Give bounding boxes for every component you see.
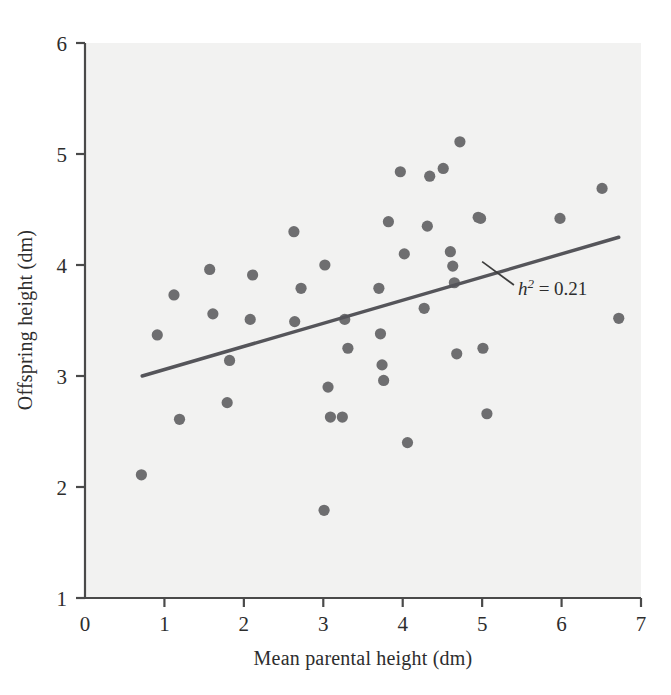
scatter-point	[342, 343, 353, 354]
scatter-point	[424, 171, 435, 182]
y-tick-label: 3	[57, 365, 68, 389]
scatter-point	[419, 303, 430, 314]
scatter-point	[422, 221, 433, 232]
scatter-point	[375, 328, 386, 339]
scatter-point	[445, 246, 456, 257]
scatter-point	[224, 355, 235, 366]
x-tick-label: 4	[397, 612, 408, 636]
scatter-point	[399, 248, 410, 259]
scatter-point	[613, 313, 624, 324]
y-axis-ticks	[76, 43, 85, 598]
x-tick-label: 0	[80, 612, 91, 636]
y-axis-title: Offspring height (dm)	[14, 230, 37, 410]
scatter-point	[289, 316, 300, 327]
scatter-point	[204, 264, 215, 275]
y-axis-tick-labels: 123456	[57, 32, 68, 611]
scatter-point	[325, 411, 336, 422]
scatter-point	[152, 329, 163, 340]
scatter-point	[136, 469, 147, 480]
y-tick-label: 1	[57, 587, 68, 611]
x-tick-label: 1	[159, 612, 170, 636]
scatter-point	[295, 283, 306, 294]
scatter-point	[447, 261, 458, 272]
scatter-point	[475, 213, 486, 224]
scatter-point	[337, 411, 348, 422]
scatter-point	[373, 283, 384, 294]
plot-area-background	[85, 43, 641, 598]
scatter-point	[322, 382, 333, 393]
y-tick-label: 4	[57, 254, 68, 278]
scatter-point	[376, 359, 387, 370]
annotation-h-symbol: h	[518, 278, 528, 299]
scatter-point	[207, 308, 218, 319]
x-tick-label: 7	[636, 612, 647, 636]
scatter-point	[438, 163, 449, 174]
scatter-point	[554, 213, 565, 224]
y-tick-label: 5	[57, 143, 68, 167]
scatter-point	[481, 408, 492, 419]
y-tick-label: 2	[57, 476, 68, 500]
annotation-value: = 0.21	[534, 278, 587, 299]
scatter-point	[319, 259, 330, 270]
scatter-point	[402, 437, 413, 448]
scatter-point	[395, 166, 406, 177]
x-axis-ticks	[164, 598, 641, 607]
scatter-point	[245, 314, 256, 325]
chart-canvas: 123456 01234567 h2 = 0.21 Mean parental …	[0, 0, 671, 695]
scatter-point	[383, 216, 394, 227]
x-tick-label: 3	[318, 612, 329, 636]
x-tick-label: 6	[556, 612, 567, 636]
scatter-point	[454, 136, 465, 147]
x-tick-label: 2	[239, 612, 250, 636]
scatter-point	[477, 343, 488, 354]
x-axis-tick-labels: 01234567	[80, 612, 647, 636]
scatter-point	[451, 348, 462, 359]
scatter-point	[596, 183, 607, 194]
scatter-point	[288, 226, 299, 237]
scatter-point	[318, 505, 329, 516]
x-tick-label: 5	[477, 612, 488, 636]
y-tick-label: 6	[57, 32, 68, 56]
scatter-point	[247, 269, 258, 280]
x-axis-title: Mean parental height (dm)	[254, 647, 473, 670]
scatter-plot-figure: 123456 01234567 h2 = 0.21 Mean parental …	[0, 0, 671, 695]
scatter-point	[222, 397, 233, 408]
scatter-point	[168, 289, 179, 300]
scatter-point	[174, 414, 185, 425]
scatter-point	[378, 375, 389, 386]
